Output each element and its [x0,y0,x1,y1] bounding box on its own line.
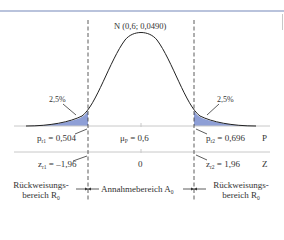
p-r1-pointer [75,129,87,134]
p-r2-label: pr2 = 0,696 [206,133,245,146]
left-tail-percent: 2,5% [49,95,66,105]
z-center-label: 0 [138,159,143,169]
left-pct-pointer [63,104,76,115]
left-rejection-region-label: Rückweisungs- bereich R0 [8,180,74,203]
z-r2-label: zr2 = 1,96 [206,159,240,172]
bell-curve [26,33,256,127]
right-rejection-region-label: Rückweisungs- bereich R0 [208,180,274,203]
p-center-label: μP = 0,6 [120,133,149,146]
z-r1-label: zr1 = –1,96 [38,159,76,172]
acceptance-region-label: Annahmebereich A0 [101,184,173,197]
distribution-title: N (0,6; 0,0490) [114,21,166,31]
right-pct-pointer [207,104,219,115]
p-r1-label: pr1 = 0,504 [37,133,76,146]
p-axis-label: P [262,133,267,143]
right-tail-percent: 2,5% [217,95,234,105]
z-axis-label: Z [262,159,268,169]
